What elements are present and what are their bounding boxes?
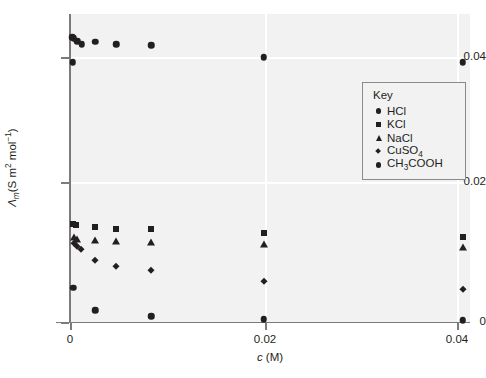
legend-title: Key (373, 89, 465, 101)
legend-marker-triangle-icon (373, 135, 384, 141)
legend-label: CH3COOH (387, 157, 443, 172)
legend-marker-circle-icon (373, 162, 384, 168)
legend-marker-square-icon (373, 122, 384, 128)
data-point-CH3COOH (460, 317, 467, 324)
legend-label-subscript: 3 (404, 163, 409, 172)
y-axis-label-subscript: m (12, 193, 21, 200)
y-ticklabel-0.04: 0.04 (426, 50, 486, 62)
x-axis-label-unit: (M) (263, 351, 283, 363)
y-axis-label-close: ) (5, 129, 17, 133)
data-point-NaCl (112, 238, 120, 245)
legend-marker-shape (376, 122, 382, 128)
y-tick-0 (61, 322, 69, 324)
data-point-NaCl (260, 241, 268, 248)
x-ticklabel-0.02: 0.02 (254, 333, 276, 345)
data-point-KCl (460, 234, 466, 240)
legend-marker-shape (376, 135, 382, 141)
legend-marker-diamond-icon (373, 149, 384, 153)
data-point-KCl (261, 230, 267, 236)
x-tick-0.04 (457, 322, 459, 330)
y-axis-label-wrapper: Λm(S m2 mol−1) (2, 0, 22, 336)
y-axis-label-mid: mol (5, 142, 17, 164)
data-point-HCl (92, 39, 99, 46)
data-point-CH3COOH (260, 316, 267, 323)
scatter-chart-figure: 0.04 0.02 0 0 0.02 0.04 Λm(S m2 mol−1) c… (0, 0, 486, 378)
x-axis-label: c (M) (70, 351, 470, 363)
y-axis-label-symbol: Λ (5, 200, 17, 208)
gridline-horizontal-0.02 (70, 182, 470, 184)
data-point-HCl (148, 42, 155, 49)
legend-label: KCl (387, 118, 406, 130)
legend-box: Key HClKClNaClCuSO4CH3COOH (362, 82, 466, 180)
y-axis-label-sup-area: 2 (3, 164, 12, 169)
y-axis-label: Λm(S m2 mol−1) (3, 129, 20, 207)
data-point-NaCl (91, 236, 99, 243)
data-point-KCl (113, 226, 119, 232)
data-point-NaCl (459, 244, 467, 251)
legend-label: HCl (387, 105, 406, 117)
gridline-horizontal-0.04 (70, 57, 470, 59)
x-ticklabel-0.04: 0.04 (446, 333, 468, 345)
legend-entry-HCl: HCl (373, 104, 465, 118)
data-point-HCl (260, 54, 267, 61)
x-ticklabel-0: 0 (67, 333, 73, 345)
data-point-HCl (460, 59, 467, 66)
legend-marker-shape (376, 162, 382, 168)
legend-label: NaCl (387, 132, 413, 144)
data-point-KCl (148, 226, 154, 232)
y-axis-label-open: (S m (5, 168, 17, 192)
data-point-KCl (92, 224, 98, 230)
data-point-HCl (78, 41, 85, 48)
y-tick-0.02 (61, 182, 69, 184)
legend-entry-CuSO4: CuSO4 (373, 145, 465, 159)
data-point-KCl (73, 222, 79, 228)
legend-entry-NaCl: NaCl (373, 131, 465, 145)
data-point-NaCl (147, 238, 155, 245)
legend-marker-shape (376, 108, 382, 114)
data-point-CH3COOH (70, 59, 77, 66)
legend-entries: HClKClNaClCuSO4CH3COOH (373, 104, 465, 172)
data-point-CH3COOH (148, 313, 155, 320)
y-axis-label-sup-inverse: −1 (3, 133, 12, 142)
x-tick-0 (70, 322, 72, 330)
legend-marker-circle-icon (373, 108, 384, 114)
legend-entry-KCl: KCl (373, 118, 465, 132)
x-tick-0.02 (265, 322, 267, 330)
data-point-HCl (113, 41, 120, 48)
data-point-CH3COOH (92, 307, 99, 314)
legend-marker-shape (376, 148, 382, 154)
data-point-CH3COOH (70, 284, 77, 291)
y-ticklabel-0: 0 (426, 315, 486, 327)
y-tick-0.04 (61, 57, 69, 59)
legend-entry-CH3COOH: CH3COOH (373, 158, 465, 172)
